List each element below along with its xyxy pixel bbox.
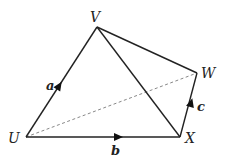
label-vector-c: c bbox=[197, 99, 205, 114]
segment-VX bbox=[97, 27, 180, 137]
label-vector-a: a bbox=[46, 78, 54, 93]
arrow-b-icon bbox=[114, 133, 123, 141]
arrow-a-icon bbox=[53, 80, 65, 92]
label-point-W: W bbox=[201, 65, 217, 81]
label-point-V: V bbox=[90, 9, 102, 25]
label-vector-b: b bbox=[111, 143, 120, 158]
segment-VW bbox=[97, 27, 197, 73]
label-point-X: X bbox=[184, 130, 196, 146]
vector-diagram: V W U X a b c bbox=[0, 0, 228, 168]
label-point-U: U bbox=[8, 130, 21, 146]
